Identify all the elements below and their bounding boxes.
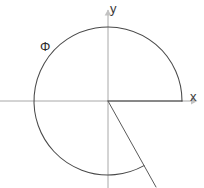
angle-diagram-figure: y x Φ <box>0 0 204 188</box>
angle-phi-label: Φ <box>40 40 50 53</box>
y-axis-label: y <box>110 2 117 15</box>
x-axis-label: x <box>190 90 197 103</box>
diagram-canvas <box>0 0 204 188</box>
